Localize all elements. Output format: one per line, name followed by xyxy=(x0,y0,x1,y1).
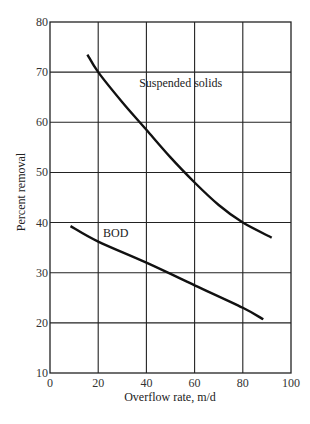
y-tick-label: 80 xyxy=(36,15,48,29)
x-tick-label: 40 xyxy=(140,376,152,390)
x-tick-label: 80 xyxy=(237,376,249,390)
y-tick-label: 70 xyxy=(36,65,48,79)
x-axis-title: Overflow rate, m/d xyxy=(124,390,216,404)
curves: Suspended solidsBOD xyxy=(71,55,272,320)
x-axis-ticks: 020406080100 xyxy=(47,376,300,390)
x-tick-label: 100 xyxy=(282,376,300,390)
y-axis-title: Percent removal xyxy=(14,152,28,231)
y-tick-label: 30 xyxy=(36,266,48,280)
gridlines xyxy=(50,22,291,373)
curve-label-suspended-solids: Suspended solids xyxy=(139,76,222,90)
plot-area xyxy=(50,22,291,373)
x-tick-label: 60 xyxy=(189,376,201,390)
x-tick-label: 0 xyxy=(47,376,53,390)
y-tick-label: 50 xyxy=(36,165,48,179)
y-tick-label: 60 xyxy=(36,115,48,129)
y-tick-label: 20 xyxy=(36,316,48,330)
y-tick-label: 40 xyxy=(36,216,48,230)
curve-label-bod: BOD xyxy=(103,226,129,240)
y-axis-ticks: 1020304050607080 xyxy=(36,15,48,380)
x-tick-label: 20 xyxy=(92,376,104,390)
chart: Suspended solidsBOD 1020304050607080 020… xyxy=(0,0,310,424)
